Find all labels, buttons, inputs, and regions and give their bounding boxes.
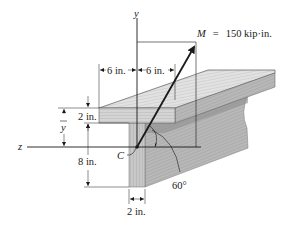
angle-label: 60° [172,180,187,191]
moment-label: M = 150 kip·in. [196,23,272,40]
dim-web-height-label: 8 in. [78,156,97,167]
dim-web-thickness-label: 2 in. [127,206,146,217]
t-beam-diagram: y z M = 150 kip·in. C 60° [0,0,291,229]
dim-flange-right-label: 6 in. [146,65,165,76]
dim-flange-left-label: 6 in. [107,65,126,76]
moment-equals: = [213,28,219,39]
beam-flange [99,70,275,123]
diagram-canvas: y z M = 150 kip·in. C 60° [0,0,291,229]
dim-flange-thickness-label: 2 in. [78,111,97,122]
centroid-label: C [117,150,125,161]
moment-symbol: M [196,28,207,39]
moment-value: 150 kip·in. [226,28,272,39]
dim-centroid-distance-label: y [60,122,66,133]
z-axis-label: z [17,141,22,152]
y-axis-label: y [133,8,139,19]
dim-web-thickness [129,189,145,204]
